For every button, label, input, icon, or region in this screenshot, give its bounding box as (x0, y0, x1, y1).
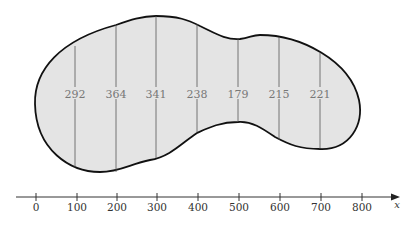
tick-label-0: 0 (33, 201, 40, 213)
x-axis: 0 100 200 300 400 500 600 700 800 x (16, 193, 400, 213)
tick-label-700: 700 (311, 201, 331, 213)
tick-label-800: 800 (352, 201, 372, 213)
width-label-200: 364 (106, 88, 127, 101)
tick-label-200: 200 (107, 201, 127, 213)
width-label-400: 238 (187, 88, 208, 101)
width-label-700: 221 (310, 88, 331, 101)
tick-label-300: 300 (147, 201, 167, 213)
tick-label-400: 400 (188, 201, 208, 213)
width-label-100: 292 (65, 88, 86, 101)
tick-label-100: 100 (67, 201, 87, 213)
tick-label-600: 600 (270, 201, 290, 213)
diagram-canvas: 292 364 341 238 179 215 221 0 100 200 30… (0, 0, 407, 226)
width-label-500: 179 (228, 88, 249, 101)
axis-label-x: x (394, 199, 400, 210)
width-label-600: 215 (269, 88, 290, 101)
tick-label-500: 500 (229, 201, 249, 213)
width-label-300: 341 (146, 88, 167, 101)
